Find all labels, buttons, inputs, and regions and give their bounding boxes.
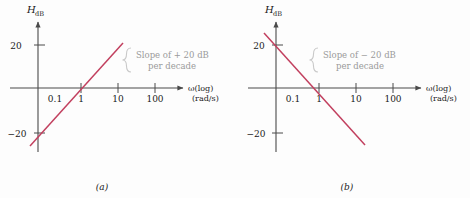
panel-b-caption: (b) (341, 182, 354, 192)
panel-b-ytick-label-neg20: −20 (247, 129, 266, 139)
figure-canvas: H dB 20 −20 0.1 1 10 100 ω(log) (rad/s) … (0, 0, 470, 198)
panel-a-caption: (a) (96, 182, 109, 192)
panel-b-x-axis-label-line1: ω(log) (426, 84, 451, 93)
panel-b-xtick-label-0.1: 0.1 (286, 94, 300, 104)
panel-a: H dB 20 −20 0.1 1 10 100 ω(log) (rad/s) … (8, 4, 219, 152)
panel-a-annotation-brace (123, 48, 132, 72)
panel-a-xtick-label-0.1: 0.1 (48, 94, 62, 104)
panel-b-annotation-line1: Slope of − 20 dB (323, 50, 396, 60)
panel-b-xtick-label-100: 100 (384, 94, 401, 104)
panel-b-x-axis-label-line2: (rad/s) (430, 94, 457, 103)
panel-b: H dB 20 −20 0.1 1 10 100 ω(log) (rad/s) … (247, 4, 457, 152)
figure-bode-asymptotes: H dB 20 −20 0.1 1 10 100 ω(log) (rad/s) … (0, 0, 470, 198)
panel-a-xtick-label-1: 1 (78, 94, 84, 104)
panel-a-y-axis-label-sub: dB (35, 10, 44, 18)
panel-a-x-axis-label-line2: (rad/s) (192, 94, 219, 103)
panel-a-ytick-label-20: 20 (10, 41, 22, 51)
panel-b-annotation-line2: per decade (336, 61, 384, 71)
panel-b-ytick-label-20: 20 (253, 41, 265, 51)
panel-a-x-axis-label-line1: ω(log) (188, 84, 213, 93)
panel-a-annotation-line2: per decade (148, 61, 196, 71)
panel-b-xtick-label-10: 10 (350, 94, 362, 104)
panel-a-xtick-label-100: 100 (146, 94, 163, 104)
panel-a-slope-line (30, 43, 123, 146)
panel-b-y-axis-label-sub: dB (273, 10, 282, 18)
panel-b-annotation-brace (310, 48, 319, 72)
panel-a-ytick-label-neg20: −20 (8, 129, 27, 139)
panel-a-xtick-label-10: 10 (112, 94, 124, 104)
panel-a-annotation-line1: Slope of + 20 dB (136, 50, 209, 60)
